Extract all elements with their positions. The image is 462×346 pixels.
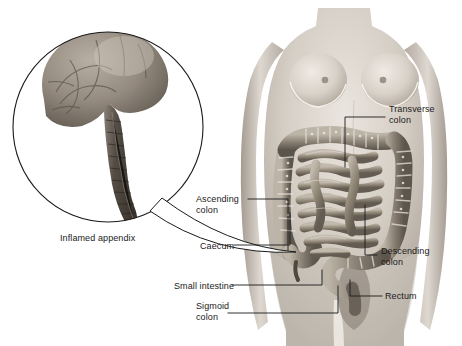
nipple-left xyxy=(322,77,329,84)
caecum-highlight xyxy=(94,36,154,76)
breast-right xyxy=(361,53,419,107)
rectum-segment xyxy=(352,288,355,310)
label-sigmoid-colon: Sigmoid colon xyxy=(196,301,229,322)
caption-inflamed-appendix: Inflamed appendix xyxy=(60,233,135,244)
nipple-right xyxy=(380,77,387,84)
label-descending-colon: Descending colon xyxy=(381,246,430,267)
label-transverse-colon: Transverse colon xyxy=(389,104,435,125)
breast-left xyxy=(289,53,347,107)
label-ascending-colon: Ascending colon xyxy=(196,194,239,215)
medical-figure: Transverse colon Ascending colon Caecum … xyxy=(0,0,462,346)
label-caecum: Caecum xyxy=(200,241,234,252)
label-rectum: Rectum xyxy=(385,291,417,302)
label-small-intestine: Small intestine xyxy=(174,281,234,292)
ascending-colon-segment xyxy=(282,150,291,252)
